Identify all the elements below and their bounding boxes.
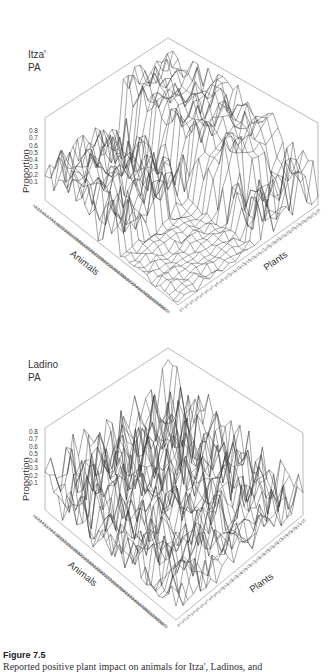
z-tick: 0.8	[22, 127, 38, 134]
panel-label-line2: PA	[28, 371, 58, 384]
z-tick: 0.6	[22, 142, 38, 149]
z-tick: 0.5	[22, 450, 38, 457]
figure-title: Figure 7.5	[3, 650, 333, 660]
z-tick: 0.2	[22, 171, 38, 178]
panel-label-ladino: Ladino PA	[28, 358, 58, 384]
surface-plot-itza: A1A2A3A4A5A6A7A8A9A10A11A12A13A14A15A16A…	[0, 0, 333, 330]
z-tick: 0.1	[22, 479, 38, 486]
panel-label-line1: Ladino	[28, 358, 58, 371]
chart-panel-itza: A1A2A3A4A5A6A7A8A9A10A11A12A13A14A15A16A…	[0, 0, 333, 330]
panel-label-itza: Itza' PA	[28, 48, 46, 74]
panel-label-line1: Itza'	[28, 48, 46, 61]
svg-text:P28: P28	[313, 207, 322, 216]
z-tick: 0.4	[22, 457, 38, 464]
z-tick: 0.5	[22, 149, 38, 156]
z-tick: 0.6	[22, 443, 38, 450]
svg-text:P28: P28	[298, 517, 307, 526]
z-tick: 0.1	[22, 178, 38, 185]
figure-caption: Figure 7.5 Reported positive plant impac…	[3, 650, 333, 672]
figure-caption-text: Reported positive plant impact on animal…	[3, 661, 333, 672]
z-tick: 0.3	[22, 163, 38, 170]
svg-text:A58: A58	[162, 306, 171, 315]
z-tick: 0.7	[22, 134, 38, 141]
panel-label-line2: PA	[28, 61, 46, 74]
z-tick: 0.4	[22, 156, 38, 163]
z-tick: 0.2	[22, 472, 38, 479]
z-tick: 0.7	[22, 435, 38, 442]
z-axis-ticks: 0.80.70.60.50.40.30.20.1	[22, 127, 38, 185]
chart-panel-ladino: A1A2A3A4A5A6A7A8A9A10A11A12A13A14A15A16A…	[0, 330, 333, 650]
z-axis-ticks: 0.80.70.60.50.40.30.20.1	[22, 428, 38, 486]
z-tick: 0.3	[22, 464, 38, 471]
svg-text:A58: A58	[160, 621, 169, 630]
z-tick: 0.8	[22, 428, 38, 435]
